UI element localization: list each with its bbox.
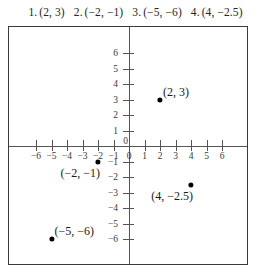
x-tick-label: 0 bbox=[127, 151, 132, 161]
y-tick-label: −6 bbox=[108, 234, 118, 244]
x-tick-label: 5 bbox=[204, 151, 209, 161]
header-item-2-number: 2. bbox=[74, 6, 83, 18]
x-tick bbox=[36, 140, 37, 151]
x-tick-label: −6 bbox=[31, 151, 41, 161]
coordinate-plane: −6−5−4−3−2−101234560 −6−5−4−3−2−1123456 … bbox=[9, 27, 247, 264]
point-label: (−2, −1) bbox=[60, 166, 100, 181]
header-item-4: 4.(4, −2.5) bbox=[191, 6, 243, 18]
y-tick-label: −3 bbox=[108, 188, 118, 198]
plotted-point bbox=[49, 236, 54, 241]
y-tick bbox=[123, 193, 134, 194]
plotted-point bbox=[157, 97, 162, 102]
x-tick-label: −5 bbox=[46, 151, 56, 161]
x-tick bbox=[191, 140, 192, 151]
x-tick bbox=[207, 140, 208, 151]
plotted-point bbox=[95, 159, 100, 164]
y-tick bbox=[123, 239, 134, 240]
x-tick bbox=[114, 140, 115, 151]
y-tick bbox=[123, 115, 134, 116]
x-tick-label: −3 bbox=[77, 151, 87, 161]
header-item-3-coord: (−5, −6) bbox=[143, 6, 182, 18]
y-tick-label: 5 bbox=[113, 64, 118, 74]
y-axis bbox=[129, 27, 130, 264]
y-tick-label: 3 bbox=[113, 95, 118, 105]
x-tick bbox=[222, 140, 223, 151]
coordinate-list-header: 1.(2, 3) 2.(−2, −1) 3.(−5, −6) 4.(4, −2.… bbox=[0, 0, 271, 24]
y-tick-label: −5 bbox=[108, 219, 118, 229]
point-label: (2, 3) bbox=[163, 85, 189, 100]
header-item-3: 3.(−5, −6) bbox=[132, 6, 182, 18]
header-item-3-number: 3. bbox=[132, 6, 141, 18]
y-tick bbox=[123, 100, 134, 101]
y-tick bbox=[123, 131, 134, 132]
y-tick bbox=[123, 177, 134, 178]
y-tick-label: −2 bbox=[108, 172, 118, 182]
x-tick-label: 1 bbox=[142, 151, 147, 161]
y-tick-label: 2 bbox=[113, 110, 118, 120]
y-tick bbox=[123, 69, 134, 70]
point-label: (−5, −6) bbox=[55, 224, 95, 239]
x-tick-label: 3 bbox=[173, 151, 178, 161]
y-tick bbox=[123, 208, 134, 209]
point-label: (4, −2.5) bbox=[151, 189, 193, 204]
x-tick bbox=[52, 140, 53, 151]
header-item-4-coord: (4, −2.5) bbox=[202, 6, 243, 18]
x-tick bbox=[98, 140, 99, 151]
coordinate-plane-frame: −6−5−4−3−2−101234560 −6−5−4−3−2−1123456 … bbox=[8, 26, 248, 265]
y-tick bbox=[123, 84, 134, 85]
x-tick bbox=[160, 140, 161, 151]
x-axis bbox=[9, 146, 247, 147]
x-tick-label: 4 bbox=[189, 151, 194, 161]
header-item-1-coord: (2, 3) bbox=[39, 6, 65, 18]
x-tick bbox=[67, 140, 68, 151]
y-tick-label: −1 bbox=[108, 157, 118, 167]
plotted-point bbox=[188, 182, 193, 187]
y-tick-label: 6 bbox=[113, 48, 118, 58]
x-tick bbox=[83, 140, 84, 151]
header-item-2-coord: (−2, −1) bbox=[85, 6, 124, 18]
y-tick bbox=[123, 162, 134, 163]
x-tick bbox=[145, 140, 146, 151]
y-tick bbox=[123, 224, 134, 225]
origin-label: 0 bbox=[123, 136, 128, 146]
x-tick-label: −4 bbox=[62, 151, 72, 161]
y-tick-label: 4 bbox=[113, 79, 118, 89]
header-item-1-number: 1. bbox=[28, 6, 37, 18]
y-tick bbox=[123, 53, 134, 54]
y-tick-label: −4 bbox=[108, 203, 118, 213]
x-tick-label: 2 bbox=[158, 151, 163, 161]
header-item-4-number: 4. bbox=[191, 6, 200, 18]
x-tick bbox=[176, 140, 177, 151]
header-item-2: 2.(−2, −1) bbox=[74, 6, 124, 18]
header-item-1: 1.(2, 3) bbox=[28, 6, 64, 18]
x-tick-label: 6 bbox=[220, 151, 225, 161]
y-tick-label: 1 bbox=[113, 126, 118, 136]
